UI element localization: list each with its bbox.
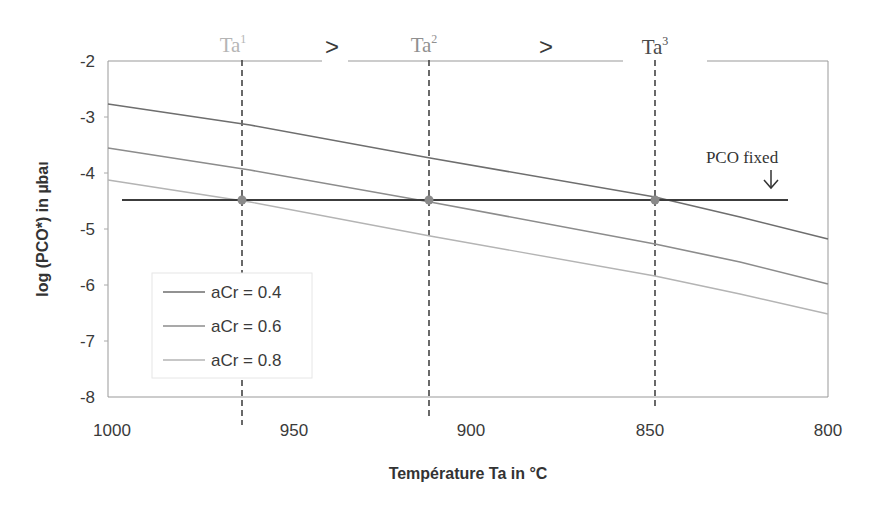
legend: aCr = 0.4 aCr = 0.6 aCr = 0.8 xyxy=(152,273,312,378)
arrow-down-icon xyxy=(764,170,778,188)
y-axis-title: log (PCO*) in µbaı xyxy=(34,161,51,296)
svg-text:850: 850 xyxy=(636,421,664,440)
x-tick-labels: 1000 950 900 850 800 xyxy=(93,421,842,440)
svg-text:-2: -2 xyxy=(80,52,95,71)
ta2-label: Ta2 xyxy=(411,32,438,57)
intersection-point-3 xyxy=(651,196,660,205)
ta-labels: Ta1 > Ta2 > Ta3 xyxy=(220,32,669,60)
chart: -2 -3 -4 -5 -6 -7 -8 1000 950 900 850 80… xyxy=(0,0,878,507)
x-axis-title: Température Ta in °C xyxy=(389,465,548,482)
legend-item-acr-0-6: aCr = 0.6 xyxy=(211,317,281,336)
ta1-label: Ta1 xyxy=(220,32,247,57)
svg-text:-4: -4 xyxy=(80,164,95,183)
y-tick-marks xyxy=(104,117,108,341)
legend-item-acr-0-8: aCr = 0.8 xyxy=(211,351,281,370)
svg-text:-8: -8 xyxy=(80,388,95,407)
intersection-point-1 xyxy=(238,196,247,205)
greater-than-2: > xyxy=(539,33,553,60)
greater-than-1: > xyxy=(325,33,339,60)
svg-text:-6: -6 xyxy=(80,276,95,295)
legend-item-acr-0-4: aCr = 0.4 xyxy=(211,283,281,302)
svg-text:-3: -3 xyxy=(80,108,95,127)
svg-text:900: 900 xyxy=(457,421,485,440)
svg-text:800: 800 xyxy=(814,421,842,440)
svg-text:1000: 1000 xyxy=(93,421,131,440)
y-tick-labels: -2 -3 -4 -5 -6 -7 -8 xyxy=(80,52,95,407)
svg-text:950: 950 xyxy=(280,421,308,440)
intersection-point-2 xyxy=(425,196,434,205)
svg-text:-7: -7 xyxy=(80,332,95,351)
ta3-label: Ta3 xyxy=(642,34,669,59)
svg-text:-5: -5 xyxy=(80,220,95,239)
series-acr-0-4 xyxy=(108,104,828,239)
pco-fixed-annotation: PCO fixed xyxy=(706,148,779,167)
series-acr-0-6 xyxy=(108,148,828,284)
